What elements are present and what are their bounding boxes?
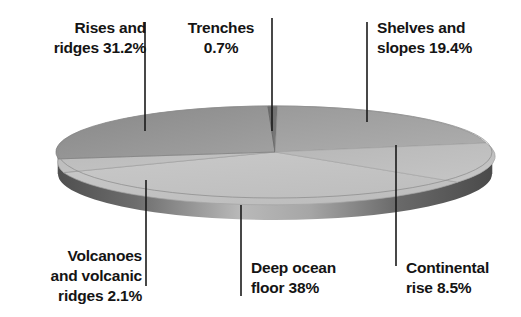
pie-label-shelves-and-slopes: Shelves and slopes 19.4%	[377, 18, 512, 58]
pie-label-continental-rise: Continental rise 8.5%	[406, 258, 518, 298]
pie-top-surface	[56, 106, 495, 205]
pie-chart-figure: Rises and ridges 31.2% Trenches 0.7% She…	[0, 0, 521, 317]
pie-slice-rises-and-ridges	[56, 106, 275, 159]
pie-label-trenches: Trenches 0.7%	[176, 18, 266, 58]
pie-label-rises-and-ridges: Rises and ridges 31.2%	[18, 18, 146, 58]
pie-label-volcanoes: Volcanoes and volcanic ridges 2.1%	[16, 246, 142, 306]
pie-label-deep-ocean-floor: Deep ocean floor 38%	[251, 258, 361, 298]
